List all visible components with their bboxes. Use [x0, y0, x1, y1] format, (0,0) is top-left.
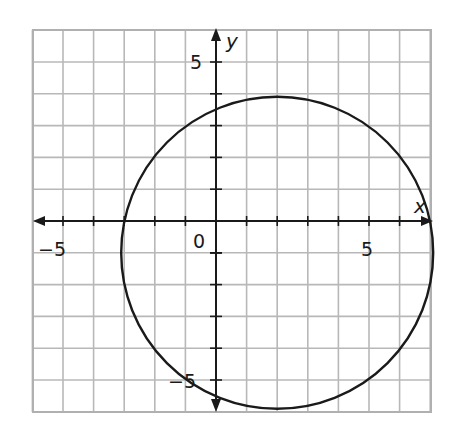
y-axis-down-arrow-icon	[211, 399, 221, 412]
coordinate-plane: −5 5 5 −5 0 y x	[0, 0, 457, 442]
y-tick-label-5: 5	[190, 51, 202, 73]
x-axis-left-arrow-icon	[33, 216, 45, 226]
x-tick-label-5: 5	[361, 238, 373, 260]
origin-label: 0	[193, 230, 205, 252]
y-axis-label: y	[225, 29, 239, 53]
x-axis-label: x	[413, 194, 426, 218]
y-tick-label-neg5: −5	[168, 370, 196, 392]
x-tick-label-neg5: −5	[38, 238, 66, 260]
